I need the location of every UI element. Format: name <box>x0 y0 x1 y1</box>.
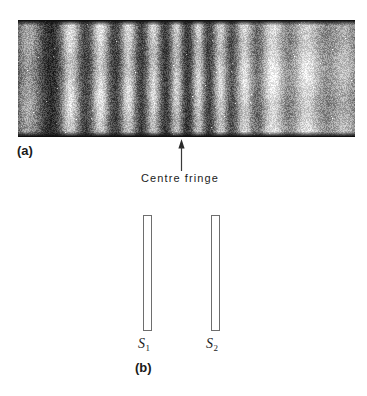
slit-s2 <box>211 215 220 331</box>
slit-label-s1: S1 <box>138 336 150 353</box>
fringe-pattern-canvas <box>18 20 355 137</box>
slit-s1 <box>143 215 152 331</box>
panel-label-a: (a) <box>17 143 33 158</box>
up-arrow-icon <box>176 139 187 171</box>
slit-label-s2-subscript: 2 <box>213 343 218 353</box>
panel-label-b: (b) <box>135 360 152 375</box>
slit-label-s1-subscript: 1 <box>145 343 150 353</box>
slit-label-s2-letter: S <box>206 336 213 351</box>
fringe-photograph <box>18 20 355 137</box>
interference-figure: (a) Centre fringe S1 S2 (b) <box>0 0 367 396</box>
slit-label-s1-letter: S <box>138 336 145 351</box>
centre-fringe-label: Centre fringe <box>141 172 219 184</box>
slit-label-s2: S2 <box>206 336 218 353</box>
